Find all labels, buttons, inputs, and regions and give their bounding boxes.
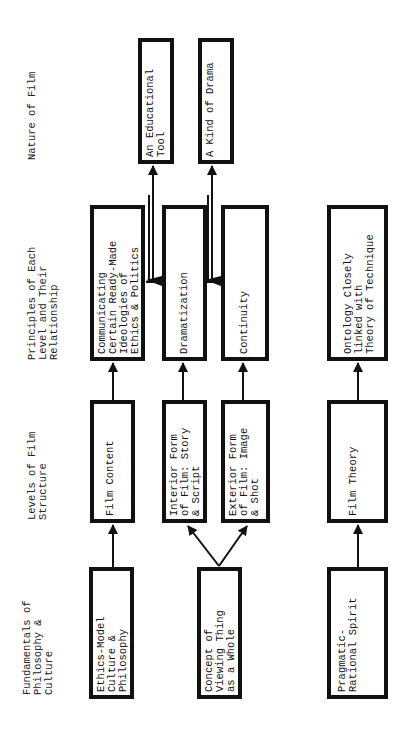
node-film-theory: Film Theory (327, 400, 388, 523)
node-educational-tool: An Educational Tool (138, 38, 174, 164)
node-exterior-form: Exterior Form of Film: Image & Shot (221, 400, 270, 523)
node-ontology: Ontology Closely linked with Theory of T… (327, 205, 388, 361)
node-continuity: Continuity (221, 205, 269, 361)
node-kind-of-drama: A Kind of Drama (198, 38, 234, 164)
node-interior-form: Interior Form of Film: Story & Script (162, 400, 207, 523)
node-concept-viewing-whole: Concept of Viewing Thing as a Whole (197, 567, 242, 699)
node-film-content: Film Content (90, 400, 135, 523)
node-dramatization: Dramatization (162, 205, 207, 361)
node-communicating-ideologies: Communicating Certain Ready-Made Ideolog… (90, 205, 145, 361)
node-ethics-model-culture: Ethics-Model Culture & Philosophy (89, 567, 134, 699)
node-pragmatic-rational-spirit: Pragmatic- Rational Spirit (327, 567, 388, 699)
arrow-concept-to-exterior (219, 526, 247, 566)
arrow-concept-to-interior (188, 526, 219, 566)
